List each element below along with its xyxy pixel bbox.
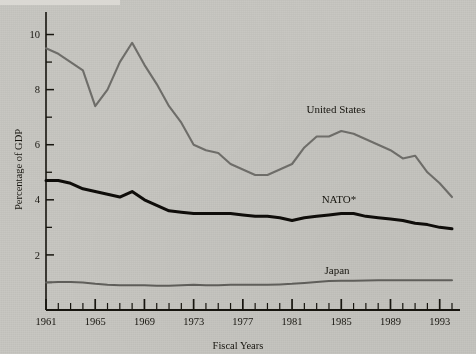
y-tick-label: 8 bbox=[35, 84, 40, 95]
y-tick-label: 4 bbox=[35, 194, 41, 205]
series-lines bbox=[46, 43, 452, 286]
series-annotations: United StatesNATO*Japan bbox=[307, 103, 366, 276]
y-tick-label: 6 bbox=[35, 139, 40, 150]
series-line-japan bbox=[46, 280, 452, 286]
series-line-nato- bbox=[46, 181, 452, 229]
y-axis-title: Percentage of GDP bbox=[13, 129, 24, 210]
x-tick-label: 1969 bbox=[134, 316, 155, 327]
label-nato: NATO* bbox=[322, 193, 357, 205]
x-tick-label: 1985 bbox=[331, 316, 352, 327]
x-tick-label: 1989 bbox=[380, 316, 401, 327]
y-axis: 246810 bbox=[30, 12, 55, 310]
x-tick-label: 1977 bbox=[232, 316, 253, 327]
x-tick-label: 1961 bbox=[36, 316, 57, 327]
x-axis: 196119651969197319771981198519891993 bbox=[36, 299, 461, 327]
x-tick-label: 1973 bbox=[183, 316, 204, 327]
x-tick-label: 1965 bbox=[85, 316, 106, 327]
label-japan: Japan bbox=[324, 264, 350, 276]
y-tick-label: 2 bbox=[35, 250, 40, 261]
x-axis-title: Fiscal Years bbox=[213, 340, 264, 351]
x-tick-label: 1981 bbox=[282, 316, 303, 327]
chart-svg: 246810 196119651969197319771981198519891… bbox=[0, 0, 476, 354]
defense-spending-chart: 246810 196119651969197319771981198519891… bbox=[0, 0, 476, 354]
series-line-united-states bbox=[46, 43, 452, 197]
label-united-states: United States bbox=[307, 103, 366, 115]
x-tick-label: 1993 bbox=[429, 316, 450, 327]
y-tick-label: 10 bbox=[30, 29, 41, 40]
